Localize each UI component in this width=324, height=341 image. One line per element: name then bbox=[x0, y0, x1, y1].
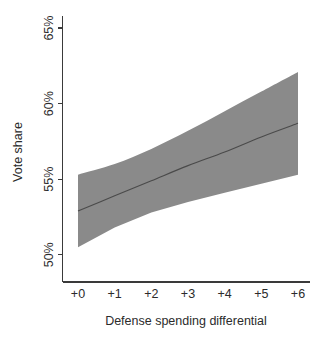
x-tick-label: +5 bbox=[254, 287, 268, 301]
x-tick-label: +1 bbox=[108, 287, 122, 301]
y-axis-title: Vote share bbox=[11, 122, 25, 182]
chart-figure: 65%60%55%50% +0+1+2+3+4+5+6 Defense spen… bbox=[0, 0, 324, 341]
x-tick-label: +4 bbox=[218, 287, 232, 301]
x-tick-label: +2 bbox=[144, 287, 158, 301]
confidence-interval-band bbox=[78, 72, 298, 247]
y-tick-marks bbox=[58, 28, 63, 255]
plot-area: 65%60%55%50% +0+1+2+3+4+5+6 Defense spen… bbox=[0, 0, 324, 341]
y-tick-label: 55% bbox=[42, 167, 56, 192]
y-tick-label: 65% bbox=[42, 16, 56, 41]
x-tick-labels: +0+1+2+3+4+5+6 bbox=[71, 287, 305, 301]
y-tick-label: 60% bbox=[42, 91, 56, 116]
x-tick-label: +0 bbox=[71, 287, 85, 301]
y-tick-labels: 65%60%55%50% bbox=[42, 16, 56, 268]
y-tick-label: 50% bbox=[42, 242, 56, 267]
x-tick-label: +3 bbox=[181, 287, 195, 301]
x-axis-title: Defense spending differential bbox=[105, 314, 267, 328]
x-tick-label: +6 bbox=[291, 287, 305, 301]
